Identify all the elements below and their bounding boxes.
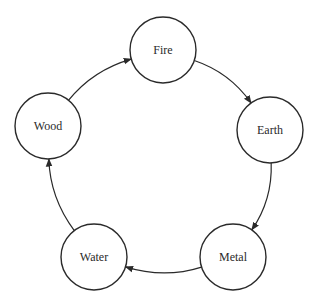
- node-label: Fire: [153, 43, 172, 57]
- node-label: Water: [80, 250, 108, 264]
- cycle-diagram: FireEarthMetalWaterWood: [0, 0, 319, 305]
- arrow-earth-to-metal: [252, 163, 271, 230]
- node-fire: Fire: [130, 17, 196, 83]
- node-earth: Earth: [237, 97, 303, 163]
- node-metal: Metal: [200, 224, 266, 290]
- node-label: Wood: [34, 119, 62, 133]
- arrow-water-to-wood: [49, 159, 74, 231]
- node-label: Metal: [219, 250, 248, 264]
- arrow-wood-to-fire: [69, 59, 132, 100]
- node-wood: Wood: [15, 93, 81, 159]
- node-label: Earth: [257, 123, 283, 137]
- arrow-fire-to-earth: [194, 61, 251, 103]
- arrow-metal-to-water: [125, 267, 201, 273]
- node-water: Water: [61, 224, 127, 290]
